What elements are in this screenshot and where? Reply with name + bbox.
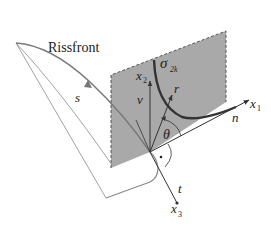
x2-subscript: 2	[143, 76, 147, 85]
crack-surface-line-outer	[16, 43, 106, 198]
n-label: n	[232, 110, 239, 125]
sigma-label: σ	[160, 55, 168, 71]
t-label: t	[178, 181, 182, 196]
x3-subscript: 3	[178, 210, 182, 219]
theta-label: θ	[163, 127, 170, 142]
v-label: v	[137, 92, 143, 107]
x3-label: x	[170, 201, 177, 216]
crack-front-arrow-icon	[84, 80, 92, 88]
x1-label: x	[249, 96, 256, 111]
x3-axis	[150, 152, 177, 203]
rissfront-label: Rissfront	[48, 40, 99, 55]
local-plane	[111, 31, 226, 168]
x1-subscript: 1	[257, 104, 261, 113]
sigma-subscript: 2k	[170, 65, 178, 74]
right-angle-dot	[160, 156, 163, 159]
x2-label: x	[135, 68, 142, 83]
s-label: s	[75, 90, 80, 105]
crack-front-diagram: Rissfront s σ 2k x 2 v r x 1 n θ t x 3	[0, 0, 271, 230]
right-angle-arc	[165, 144, 171, 167]
